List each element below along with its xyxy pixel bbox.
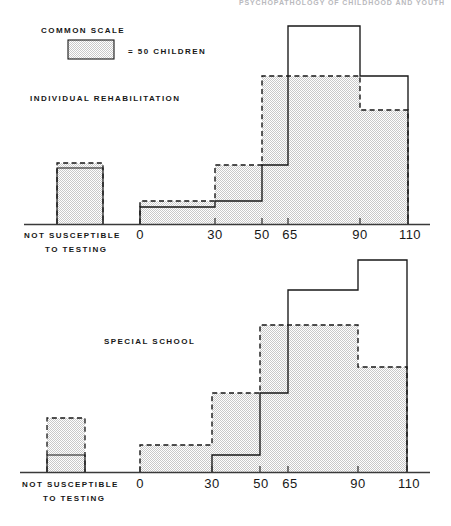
x-axis-tick-labels-p2: 0 30 50 65 90 110 (136, 476, 420, 491)
figure-root: PSYCHOPATHOLOGY OF CHILDHOOD AND YOUTH C… (0, 0, 451, 526)
histogram-figure: COMMON SCALE = 50 CHILDREN INDIVIDUAL RE… (0, 0, 451, 526)
tick-label-0-p1: 0 (136, 227, 144, 242)
tick-label-90-p2: 90 (350, 476, 365, 491)
tick-label-65-p2: 65 (282, 476, 297, 491)
tick-label-110-p2: 110 (398, 476, 420, 491)
x-axis-tick-labels-p1: 0 30 50 65 90 110 (136, 227, 421, 242)
tick-label-30-p2: 30 (204, 476, 219, 491)
tick-label-50-p2: 50 (253, 476, 268, 491)
panel-title-special-school: SPECIAL SCHOOL (104, 337, 195, 346)
legend: COMMON SCALE = 50 CHILDREN (41, 26, 206, 59)
tick-label-65-p1: 65 (282, 227, 297, 242)
bar-dashed-not-susceptible-p1 (57, 163, 103, 224)
tick-label-0-p2: 0 (136, 476, 144, 491)
panel-title-individual-rehabilitation: INDIVIDUAL REHABILITATION (30, 94, 180, 103)
running-header: PSYCHOPATHOLOGY OF CHILDHOOD AND YOUTH (239, 0, 445, 6)
not-susceptible-label-line2-p2: TO TESTING (43, 494, 105, 503)
tick-label-90-p1: 90 (352, 227, 367, 242)
not-susceptible-label-line1-p1: NOT SUSCEPTIBLE (24, 231, 121, 240)
panel-individual-rehabilitation: INDIVIDUAL REHABILITATION (24, 26, 430, 254)
legend-title: COMMON SCALE (41, 26, 125, 35)
bar-dashed-not-susceptible-p2 (47, 418, 85, 472)
not-susceptible-label-line2-p1: TO TESTING (45, 245, 107, 254)
not-susceptible-label-line1-p2: NOT SUSCEPTIBLE (22, 480, 119, 489)
panel-special-school: SPECIAL SCHOOL (20, 260, 430, 503)
legend-swatch (68, 40, 114, 59)
legend-equals-label: = 50 CHILDREN (128, 47, 206, 56)
tick-label-110-p1: 110 (399, 227, 421, 242)
bars-dashed-shaded-p2 (140, 325, 407, 472)
tick-label-30-p1: 30 (207, 227, 222, 242)
tick-label-50-p1: 50 (254, 227, 269, 242)
